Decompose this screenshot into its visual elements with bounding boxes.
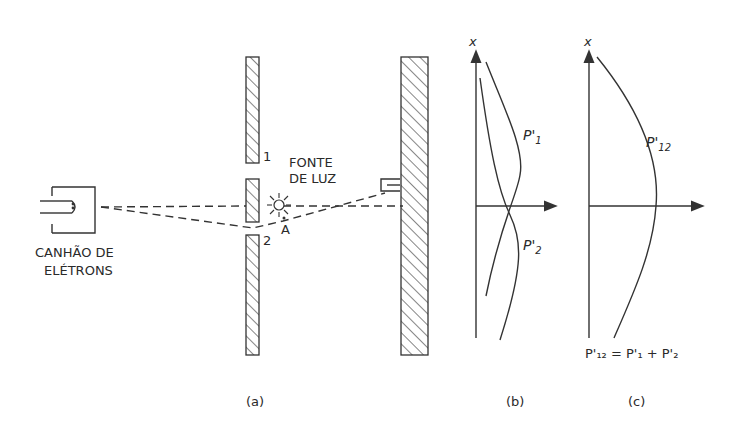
- point-a-label: A: [281, 222, 290, 237]
- curve-p12: [597, 57, 657, 338]
- curve-p1: [486, 62, 521, 296]
- light-label-line1: FONTE: [289, 155, 333, 170]
- axis-x-label-c: x: [583, 34, 592, 49]
- caption-b: (b): [506, 394, 524, 409]
- slit-1-label: 1: [263, 149, 271, 164]
- axis-x-label-b: x: [468, 34, 477, 49]
- sum-equation: P'₁₂ = P'₁ + P'₂: [585, 346, 678, 361]
- curve-p1-label: P'1: [523, 127, 542, 146]
- curve-p2: [480, 78, 519, 340]
- electron-gun-icon: [40, 187, 95, 233]
- slit-2-label: 2: [263, 233, 271, 248]
- detector-icon: [381, 179, 400, 191]
- sun-burst-icon: [267, 193, 291, 217]
- panel-a: CANHÃO DE ELÉTRONS 1 2: [35, 57, 428, 409]
- gun-label-line1: CANHÃO DE: [35, 245, 114, 260]
- slit-wall: [246, 57, 259, 355]
- backstop-wall: [401, 57, 428, 355]
- electron-double-slit-diagram: CANHÃO DE ELÉTRONS 1 2: [0, 0, 735, 426]
- light-label-line2: DE LUZ: [289, 171, 336, 186]
- gun-label-line2: ELÉTRONS: [44, 263, 113, 278]
- panel-b: x P'1 P'2 (b): [468, 34, 555, 409]
- panel-c: x P'12 P'₁₂ = P'₁ + P'₂ (c): [583, 34, 702, 409]
- curve-p2-label: P'2: [523, 237, 542, 256]
- caption-c: (c): [628, 394, 645, 409]
- caption-a: (a): [246, 394, 264, 409]
